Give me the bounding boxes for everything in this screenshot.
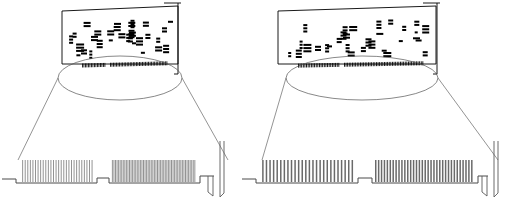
chip-block — [107, 30, 114, 32]
chip-block — [422, 32, 429, 34]
chip-block — [300, 44, 303, 46]
connector-pin — [96, 63, 97, 67]
chip-block — [89, 54, 92, 56]
chip-block — [136, 37, 143, 39]
chip-block — [423, 54, 428, 56]
connector-pin — [306, 63, 307, 67]
chip-block — [69, 42, 73, 44]
left-card-callout-line-right — [182, 78, 228, 160]
connector-pin — [371, 62, 372, 66]
chip-block — [97, 40, 103, 42]
chip-block — [81, 53, 87, 55]
chip-block — [402, 29, 406, 31]
chip-block — [346, 50, 350, 52]
connector-pin — [374, 62, 375, 66]
chip-block — [69, 39, 73, 41]
chip-block — [94, 30, 101, 32]
right-card-finger-bank-right — [376, 160, 472, 182]
left-card-callout-line-left — [18, 78, 58, 160]
connector-pin — [157, 62, 158, 66]
connector-pin — [398, 62, 399, 66]
chip-block — [422, 25, 429, 27]
connector-pin — [125, 62, 126, 66]
chip-block — [303, 24, 307, 26]
chip-block — [325, 51, 329, 53]
connector-pin — [144, 62, 145, 66]
right-card-callout-line-right — [438, 78, 498, 160]
connector-pin — [403, 62, 404, 66]
connector-pin — [394, 62, 395, 66]
chip-block — [163, 51, 169, 53]
connector-pin — [344, 63, 345, 67]
connector-pin — [90, 63, 91, 67]
chip-block — [94, 34, 101, 36]
connector-pin — [151, 62, 152, 66]
connector-pin — [410, 62, 411, 66]
connector-pin — [93, 63, 94, 67]
connector-pin — [358, 62, 359, 66]
connector-pin — [370, 62, 371, 66]
connector-pin — [397, 62, 398, 66]
chip-block — [81, 49, 87, 51]
connector-pin — [160, 61, 161, 65]
right-card-finger-bank-left — [263, 160, 352, 182]
connector-pin — [321, 63, 322, 67]
chip-block — [337, 41, 342, 43]
connector-pin — [82, 63, 83, 67]
chip-block — [143, 25, 149, 27]
right-card-pcb-outline — [278, 6, 436, 64]
connector-pin — [116, 63, 117, 67]
chip-block — [325, 47, 329, 49]
connector-pin — [121, 62, 122, 66]
connector-pin — [311, 63, 312, 67]
connector-pin — [156, 62, 157, 66]
chip-block — [325, 44, 329, 46]
connector-pin — [142, 62, 143, 66]
chip-block — [162, 27, 167, 29]
connector-pin — [84, 63, 85, 67]
chip-block — [128, 37, 133, 39]
connector-pin — [153, 62, 154, 66]
connector-pin — [346, 63, 347, 67]
chip-block — [162, 31, 167, 33]
chip-block — [89, 50, 92, 52]
connector-pin — [352, 63, 353, 67]
connector-pin — [387, 62, 388, 66]
chip-block — [300, 41, 303, 43]
connector-pin — [304, 64, 305, 68]
chip-block — [376, 27, 381, 29]
connector-pin — [308, 63, 309, 67]
chip-block — [131, 20, 135, 22]
connector-pin — [112, 63, 113, 67]
chip-block — [76, 44, 84, 46]
chip-block — [343, 26, 348, 28]
connector-pin — [408, 62, 409, 66]
chip-block — [341, 35, 347, 37]
connector-pin — [88, 63, 89, 67]
chip-block — [303, 27, 307, 29]
connector-pin — [332, 63, 333, 67]
connector-pin — [390, 62, 391, 66]
chip-block — [136, 44, 143, 46]
connector-pin — [406, 62, 407, 66]
connector-pin — [376, 62, 377, 66]
connector-pin — [102, 63, 103, 67]
connector-pin — [337, 63, 338, 67]
chip-block — [303, 31, 307, 33]
chip-block — [346, 47, 350, 49]
connector-pin — [122, 62, 123, 66]
connector-pin — [382, 62, 383, 66]
chip-block — [136, 40, 143, 42]
connector-pin — [411, 61, 412, 65]
connector-pin — [366, 62, 367, 66]
connector-pin — [405, 62, 406, 66]
chip-block — [376, 24, 381, 26]
connector-pin — [137, 62, 138, 66]
chip-block — [118, 36, 125, 38]
connector-pin — [330, 63, 331, 67]
chip-block — [337, 38, 342, 40]
chip-block — [73, 36, 77, 38]
diagram-canvas — [0, 0, 522, 208]
connector-pin — [338, 63, 339, 67]
connector-pin — [87, 63, 88, 67]
